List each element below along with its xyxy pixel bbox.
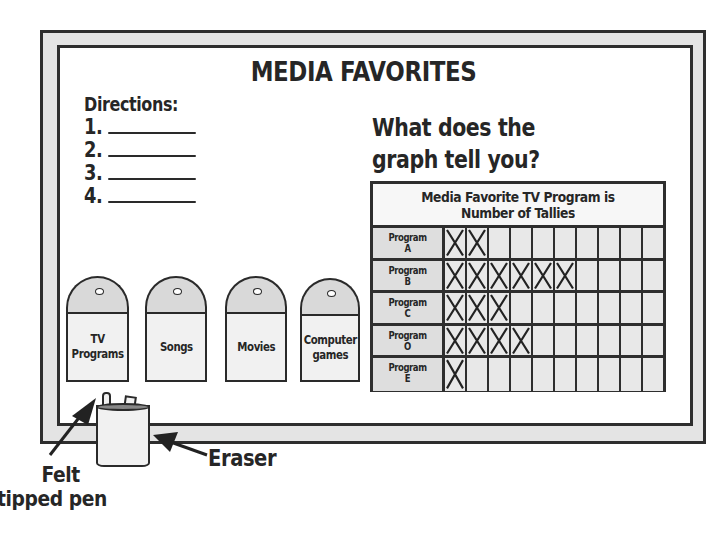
tally-cell-empty (599, 261, 621, 291)
jar-body: Movies (225, 312, 287, 382)
tally-cell-empty (533, 293, 555, 323)
tally-cell-marked (555, 261, 577, 291)
direction-item: 4. (84, 185, 202, 208)
tally-x-icon (445, 326, 465, 356)
direction-blank-line (108, 201, 196, 203)
tally-row: ProgramO (373, 326, 663, 359)
jar-label-line-1: TV (71, 332, 123, 347)
tally-cell-empty (489, 228, 511, 258)
tally-cell-marked (467, 293, 489, 323)
tally-cell-empty (599, 326, 621, 356)
direction-item: 1. (84, 116, 202, 139)
felt-pen-callout: Felt (38, 463, 80, 487)
jar-label: TV Programs (71, 332, 123, 362)
tally-cells (445, 358, 663, 391)
tally-row: ProgramA (373, 228, 663, 261)
tally-cell-empty (621, 293, 643, 323)
tally-cell-empty (643, 228, 663, 258)
tally-cell-empty (577, 228, 599, 258)
tally-cell-empty (577, 261, 599, 291)
jar-cap (225, 276, 287, 312)
pen-label-line-2: tipped pen (0, 487, 107, 511)
tally-rows: ProgramAProgramBProgramCProgramOProgramE (373, 228, 663, 391)
tally-cell-marked (467, 228, 489, 258)
jar-cap (66, 276, 129, 312)
tally-cells (445, 326, 663, 356)
tally-x-icon (555, 261, 575, 291)
tally-row: ProgramB (373, 261, 663, 294)
tally-cell-empty (599, 358, 621, 391)
tally-cell-empty (577, 358, 599, 391)
tally-cell-marked (445, 293, 467, 323)
jar-label-line-2: Programs (71, 347, 123, 362)
tally-cells (445, 228, 663, 258)
tally-chart: Media Favorite TV Program is Number of T… (370, 181, 666, 392)
tally-x-icon (489, 293, 509, 323)
jar-label-line-2: games (303, 348, 356, 363)
jar-hole-icon (253, 288, 262, 295)
tally-x-icon (467, 326, 487, 356)
row-label: ProgramC (373, 293, 445, 323)
felt-pen-callout-2: tipped pen (0, 487, 107, 511)
tally-cell-marked (489, 261, 511, 291)
tally-cell-marked (533, 261, 555, 291)
tally-cell-marked (489, 293, 511, 323)
tally-x-icon (511, 326, 531, 356)
tally-cell-empty (577, 326, 599, 356)
row-label: ProgramO (373, 326, 445, 356)
direction-number: 2. (84, 138, 104, 162)
row-label-line-2: C (378, 308, 437, 319)
tally-cell-empty (621, 228, 643, 258)
jar-label-line-1: Songs (160, 340, 193, 355)
jar-hole-icon (95, 288, 104, 295)
tally-cell-marked (445, 261, 467, 291)
row-label-line-2: O (378, 341, 437, 352)
jar-label: Songs (160, 340, 193, 355)
pen-label-line-1: Felt (38, 463, 80, 487)
tally-cell-empty (643, 326, 663, 356)
tally-cell-empty (577, 293, 599, 323)
row-label-line-1: Program (378, 297, 437, 308)
direction-blank-line (108, 155, 196, 157)
tally-row: ProgramC (373, 293, 663, 326)
eraser-callout: Eraser (208, 446, 276, 470)
tally-chart-title: Media Favorite TV Program is Number of T… (373, 184, 663, 228)
row-label-line-1: Program (378, 265, 437, 276)
tally-cell-empty (599, 228, 621, 258)
tally-cell-empty (555, 293, 577, 323)
direction-blank-line (108, 132, 196, 134)
tally-cell-empty (643, 293, 663, 323)
tally-cell-marked (445, 358, 467, 391)
jar-tv-programs: TV Programs (66, 276, 129, 382)
tally-cells (445, 293, 663, 323)
tally-x-icon (467, 228, 487, 258)
tally-cell-empty (533, 326, 555, 356)
direction-item: 2. (84, 139, 202, 162)
row-label-line-1: Program (378, 362, 437, 373)
jar-hole-icon (327, 290, 336, 297)
tally-x-icon (445, 228, 465, 258)
directions-heading: Directions: (84, 92, 178, 116)
tally-x-icon (445, 358, 465, 391)
tally-cell-empty (621, 261, 643, 291)
jar-songs: Songs (145, 276, 207, 382)
tally-cell-empty (533, 228, 555, 258)
row-label-line-1: Program (378, 232, 437, 243)
tally-cell-marked (511, 326, 533, 356)
jar-body: Computer games (300, 314, 360, 382)
pen-cup-icon (96, 405, 150, 467)
direction-blank-line (108, 178, 196, 180)
jar-hole-icon (173, 288, 182, 295)
graph-question: What does the graph tell you? (372, 112, 540, 176)
tally-x-icon (467, 293, 487, 323)
tally-x-icon (511, 261, 531, 291)
tally-cell-marked (445, 228, 467, 258)
tally-cell-marked (467, 261, 489, 291)
pen-cup-rim (96, 403, 150, 411)
tally-cell-empty (467, 358, 489, 391)
tally-row: ProgramE (373, 358, 663, 391)
tally-cell-empty (489, 358, 511, 391)
tally-cell-empty (599, 293, 621, 323)
jar-body: TV Programs (66, 312, 129, 382)
tally-cell-marked (467, 326, 489, 356)
